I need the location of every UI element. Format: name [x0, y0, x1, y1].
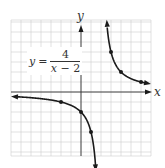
- equation-equals: =: [38, 55, 47, 68]
- y-axis-arrow-icon: [79, 25, 84, 32]
- data-point: [119, 70, 123, 74]
- data-point: [79, 110, 83, 114]
- rational-function-graph: x y: [0, 0, 165, 168]
- equation-denominator-rest: − 2: [57, 62, 80, 75]
- right-branch-right-arrow-icon: [144, 80, 151, 85]
- equation-fraction: 4 x − 2: [50, 49, 80, 74]
- data-point: [109, 50, 113, 54]
- equation-denominator: x − 2: [51, 62, 80, 74]
- y-axis-label: y: [76, 9, 84, 23]
- left-branch-left-arrow-icon: [11, 94, 18, 99]
- axes: x y: [11, 9, 161, 156]
- data-point: [59, 100, 63, 104]
- right-branch-up-arrow-icon: [105, 20, 110, 27]
- equation-label: y = 4 x − 2: [27, 47, 82, 75]
- data-point: [89, 130, 93, 134]
- equation-numerator: 4: [62, 49, 69, 61]
- data-point: [139, 80, 143, 84]
- right-branch-curve: [107, 27, 146, 83]
- equation-lhs: y: [29, 55, 35, 68]
- left-branch-down-arrow-icon: [93, 164, 98, 168]
- x-axis-label: x: [154, 85, 161, 99]
